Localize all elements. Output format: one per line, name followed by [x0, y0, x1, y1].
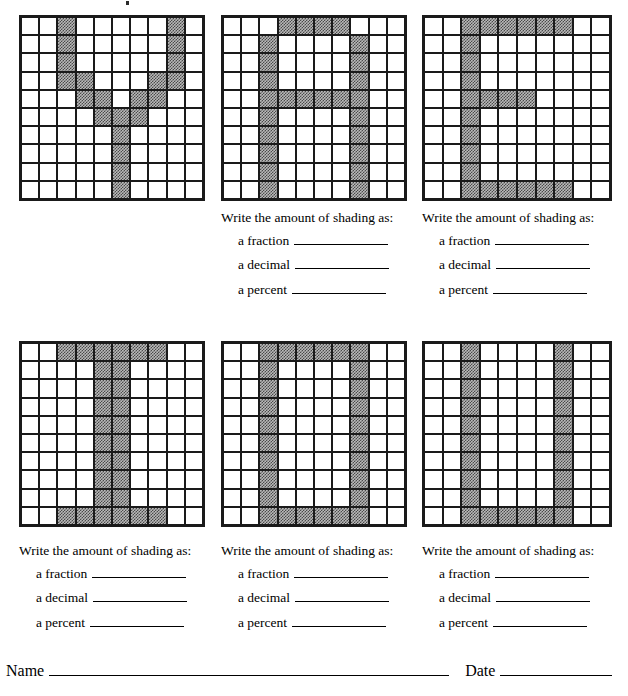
grid-cell-empty[interactable]: [591, 398, 610, 416]
grid-cell-empty[interactable]: [223, 181, 241, 199]
grid-cell-empty[interactable]: [573, 379, 592, 397]
grid-cell-shaded[interactable]: [57, 53, 75, 71]
grid-cell-empty[interactable]: [591, 17, 610, 35]
grid-cell-shaded[interactable]: [350, 90, 368, 108]
grid-cell-empty[interactable]: [591, 126, 610, 144]
grid-cell-empty[interactable]: [332, 181, 350, 199]
grid-cell-shaded[interactable]: [480, 507, 499, 525]
grid-cell-empty[interactable]: [369, 72, 387, 90]
grid-cell-empty[interactable]: [424, 72, 443, 90]
grid-cell-empty[interactable]: [130, 163, 148, 181]
grid-cell-empty[interactable]: [57, 144, 75, 162]
grid-cell-empty[interactable]: [314, 489, 332, 507]
grid-cell-empty[interactable]: [554, 126, 573, 144]
grid-cell-shaded[interactable]: [112, 108, 130, 126]
grid-cell-empty[interactable]: [332, 163, 350, 181]
grid-cell-empty[interactable]: [296, 181, 314, 199]
grid-cell-empty[interactable]: [573, 53, 592, 71]
grid-cell-empty[interactable]: [278, 144, 296, 162]
grid-cell-empty[interactable]: [369, 343, 387, 361]
grid-cell-empty[interactable]: [573, 35, 592, 53]
grid-cell-empty[interactable]: [76, 108, 94, 126]
grid-cell-empty[interactable]: [241, 35, 259, 53]
grid-cell-shaded[interactable]: [461, 489, 480, 507]
grid-cell-empty[interactable]: [223, 53, 241, 71]
grid-cell-empty[interactable]: [591, 452, 610, 470]
grid-cell-empty[interactable]: [424, 108, 443, 126]
grid-cell-empty[interactable]: [278, 452, 296, 470]
grid-cell-shaded[interactable]: [350, 108, 368, 126]
grid-cell-empty[interactable]: [241, 361, 259, 379]
grid-cell-empty[interactable]: [480, 343, 499, 361]
grid-cell-empty[interactable]: [369, 35, 387, 53]
grid-cell-empty[interactable]: [387, 434, 405, 452]
grid-cell-shaded[interactable]: [94, 434, 112, 452]
grid-cell-shaded[interactable]: [112, 489, 130, 507]
grid-cell-shaded[interactable]: [461, 507, 480, 525]
grid-cell-empty[interactable]: [112, 17, 130, 35]
grid-cell-shaded[interactable]: [94, 90, 112, 108]
grid-cell-empty[interactable]: [314, 126, 332, 144]
grid-cell-shaded[interactable]: [461, 398, 480, 416]
grid-cell-empty[interactable]: [536, 416, 555, 434]
grid-cell-empty[interactable]: [278, 181, 296, 199]
grid-cell-empty[interactable]: [39, 452, 57, 470]
grid-cell-empty[interactable]: [387, 361, 405, 379]
grid-cell-empty[interactable]: [443, 53, 462, 71]
grid-cell-shaded[interactable]: [112, 507, 130, 525]
grid-cell-empty[interactable]: [480, 489, 499, 507]
grid-cell-empty[interactable]: [332, 434, 350, 452]
grid-cell-empty[interactable]: [296, 489, 314, 507]
grid-cell-empty[interactable]: [573, 452, 592, 470]
grid-cell-shaded[interactable]: [57, 35, 75, 53]
grid-cell-empty[interactable]: [241, 108, 259, 126]
grid-cell-empty[interactable]: [57, 90, 75, 108]
grid-cell-empty[interactable]: [498, 452, 517, 470]
grid-cell-empty[interactable]: [332, 379, 350, 397]
grid-cell-empty[interactable]: [57, 489, 75, 507]
grid-cell-empty[interactable]: [148, 53, 166, 71]
grid-cell-empty[interactable]: [498, 489, 517, 507]
grid-cell-empty[interactable]: [148, 17, 166, 35]
grid-cell-empty[interactable]: [148, 163, 166, 181]
grid-cell-empty[interactable]: [498, 126, 517, 144]
grid-cell-empty[interactable]: [94, 53, 112, 71]
grid-cell-shaded[interactable]: [57, 17, 75, 35]
grid-cell-empty[interactable]: [369, 361, 387, 379]
grid-cell-empty[interactable]: [387, 452, 405, 470]
grid-cell-empty[interactable]: [591, 489, 610, 507]
grid-cell-empty[interactable]: [21, 144, 39, 162]
grid-cell-empty[interactable]: [76, 452, 94, 470]
grid-cell-empty[interactable]: [94, 72, 112, 90]
grid-cell-empty[interactable]: [480, 416, 499, 434]
grid-cell-shaded[interactable]: [461, 361, 480, 379]
grid-cell-shaded[interactable]: [148, 343, 166, 361]
grid-cell-empty[interactable]: [296, 398, 314, 416]
grid-cell-shaded[interactable]: [112, 343, 130, 361]
grid-cell-shaded[interactable]: [350, 507, 368, 525]
grid-cell-empty[interactable]: [573, 17, 592, 35]
grid-cell-empty[interactable]: [536, 489, 555, 507]
grid-cell-shaded[interactable]: [350, 126, 368, 144]
grid-cell-shaded[interactable]: [554, 343, 573, 361]
grid-cell-empty[interactable]: [443, 35, 462, 53]
fraction-answer-line[interactable]: [495, 577, 589, 578]
grid-cell-shaded[interactable]: [112, 126, 130, 144]
grid-cell-empty[interactable]: [185, 17, 203, 35]
grid-cell-shaded[interactable]: [461, 181, 480, 199]
grid-cell-shaded[interactable]: [517, 507, 536, 525]
grid-cell-shaded[interactable]: [350, 181, 368, 199]
grid-cell-empty[interactable]: [21, 434, 39, 452]
grid-cell-empty[interactable]: [76, 379, 94, 397]
grid-cell-empty[interactable]: [332, 398, 350, 416]
grid-cell-empty[interactable]: [130, 72, 148, 90]
grid-cell-shaded[interactable]: [498, 90, 517, 108]
grid-cell-empty[interactable]: [57, 379, 75, 397]
grid-cell-empty[interactable]: [185, 361, 203, 379]
grid-cell-empty[interactable]: [241, 398, 259, 416]
grid-cell-empty[interactable]: [21, 108, 39, 126]
grid-cell-empty[interactable]: [424, 507, 443, 525]
grid-cell-shaded[interactable]: [167, 35, 185, 53]
grid-cell-empty[interactable]: [148, 416, 166, 434]
grid-cell-shaded[interactable]: [461, 379, 480, 397]
